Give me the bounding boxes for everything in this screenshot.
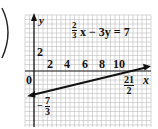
y-intercept-sign: − [37, 101, 43, 111]
y-intercept-label: 7 3 [45, 96, 50, 117]
coef-numerator: 2 [72, 21, 77, 30]
line-arrow-left-icon [27, 91, 36, 98]
x-tick-8: 8 [99, 58, 105, 70]
x-intercept-denominator: 2 [127, 86, 132, 96]
x-tick-4: 4 [64, 58, 70, 70]
x-tick-10: 10 [113, 58, 125, 70]
line-arrow-right-icon [143, 64, 151, 71]
y-axis-label: y [39, 15, 44, 26]
y-tick-2: 2 [37, 46, 43, 58]
origin-label: 0 [26, 74, 32, 86]
y-intercept-numerator: 7 [45, 96, 50, 106]
graph-figure: y 2 3 x − 3y = 7 2 2 4 6 8 10 0 x 21 2 −… [0, 0, 158, 129]
equation-text: x − 3y = 7 [80, 26, 130, 38]
y-intercept-denominator: 3 [45, 107, 50, 117]
x-intercept-label: 21 2 [124, 75, 134, 96]
x-axis-label: x [143, 74, 149, 86]
x-tick-2: 2 [47, 58, 53, 70]
coef-denominator: 3 [72, 31, 77, 40]
y-axis-arrow-icon [31, 13, 37, 21]
equation-coefficient: 2 3 [72, 21, 77, 40]
paren-glyph [2, 8, 8, 58]
graph-canvas [0, 0, 158, 129]
x-tick-6: 6 [82, 58, 88, 70]
x-intercept-numerator: 21 [124, 75, 134, 85]
